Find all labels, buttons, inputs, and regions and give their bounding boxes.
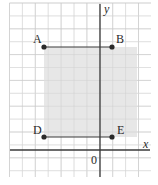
point-e	[109, 134, 114, 139]
x-axis-label: x	[142, 137, 149, 151]
origin-label: 0	[91, 153, 97, 167]
coordinate-diagram: A B D E y x 0	[0, 0, 158, 185]
label-b: B	[116, 32, 124, 46]
y-axis-label: y	[103, 2, 110, 16]
point-b	[109, 44, 114, 49]
label-e: E	[117, 123, 124, 137]
point-d	[41, 134, 46, 139]
label-d: D	[33, 123, 42, 137]
point-a	[41, 44, 46, 49]
label-a: A	[33, 32, 42, 46]
